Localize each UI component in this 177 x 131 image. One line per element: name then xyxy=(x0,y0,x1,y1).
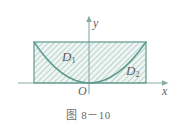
region-label-d2-sub: 2 xyxy=(135,70,139,79)
y-axis-label: y xyxy=(93,17,98,29)
region-label-d1-base: D xyxy=(62,49,71,64)
x-axis-label: x xyxy=(162,85,167,97)
figure-container: D1 D2 y x O 图 8－10 xyxy=(0,0,177,131)
figure-caption: 图 8－10 xyxy=(0,106,177,122)
region-label-d2-base: D xyxy=(126,63,135,78)
origin-label: O xyxy=(78,85,87,97)
region-label-d1: D1 xyxy=(62,50,76,65)
region-label-d1-sub: 1 xyxy=(71,56,75,65)
region-label-d2: D2 xyxy=(126,64,140,79)
y-axis-arrow-icon xyxy=(86,16,92,23)
